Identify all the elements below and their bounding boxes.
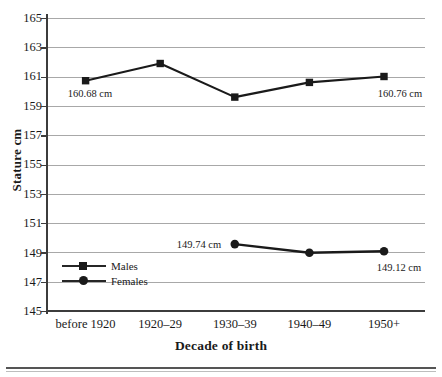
x-axis-title: Decade of birth xyxy=(0,338,442,354)
marker-males-3 xyxy=(306,79,313,86)
y-axis-title: Stature cm xyxy=(9,110,25,210)
marker-females-3 xyxy=(305,248,314,257)
x-tick-label-1920-29: 1920–29 xyxy=(138,318,182,331)
legend-item-males: Males xyxy=(62,258,148,273)
footer-rule-secondary xyxy=(6,371,436,372)
legend-marker-circle-icon xyxy=(62,275,106,287)
marker-females-4 xyxy=(380,247,389,256)
x-tick-label-before-1920: before 1920 xyxy=(56,318,116,331)
data-label-males-before-1920: 160.68 cm xyxy=(68,88,112,99)
legend-item-females: Females xyxy=(62,273,148,288)
x-tick-label-1950plus: 1950+ xyxy=(368,318,400,331)
marker-males-1 xyxy=(157,60,164,67)
legend-marker-square-icon xyxy=(62,260,106,272)
x-tick-label-1930-39: 1930–39 xyxy=(213,318,257,331)
marker-males-2 xyxy=(231,93,238,100)
series-males xyxy=(82,60,388,101)
x-tick-label-1940-49: 1940–49 xyxy=(288,318,332,331)
stature-by-decade-line-chart: 165 163 161 159 157 155 153 151 149 147 … xyxy=(0,0,442,377)
marker-males-0 xyxy=(82,77,89,84)
chart-legend: Males Females xyxy=(62,258,148,288)
data-label-females-1950plus: 149.12 cm xyxy=(377,262,421,273)
legend-label-females: Females xyxy=(111,275,148,287)
marker-males-4 xyxy=(380,73,387,80)
data-label-females-1930-39: 149.74 cm xyxy=(177,239,221,250)
marker-females-2 xyxy=(231,240,240,249)
series-females xyxy=(231,240,389,257)
data-label-males-1950plus: 160.76 cm xyxy=(378,88,422,99)
legend-label-males: Males xyxy=(111,260,138,272)
footer-rule xyxy=(6,367,436,369)
